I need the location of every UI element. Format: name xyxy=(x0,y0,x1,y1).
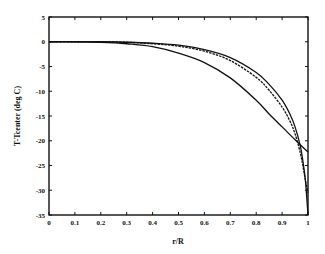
y-tick-label: -30 xyxy=(36,187,46,195)
series-layer xyxy=(49,42,308,215)
x-tick-label: 0.9 xyxy=(278,219,287,227)
y-tick-label: -5 xyxy=(39,63,45,71)
y-tick-label: -20 xyxy=(36,137,46,145)
x-tick-label: 0.4 xyxy=(148,219,157,227)
x-tick-label: 1 xyxy=(306,219,310,227)
x-tick-label: 0.7 xyxy=(226,219,235,227)
x-axis-title: r/R xyxy=(172,237,184,246)
y-axis-title: T-Tcenter (deg C) xyxy=(13,86,22,146)
y-tick-label: 0 xyxy=(42,38,46,46)
x-tick-label: 0.5 xyxy=(174,219,183,227)
y-tick-label: -25 xyxy=(36,162,46,170)
x-tick-label: 0.8 xyxy=(252,219,261,227)
y-tick-label: -35 xyxy=(36,212,46,220)
x-axis-ticks: 00.10.20.30.40.50.60.70.80.91 xyxy=(47,17,310,227)
series-line-curve-2-dashed-inner xyxy=(49,42,308,193)
series-line-curve-1-solid-outer xyxy=(49,42,308,215)
y-tick-label: 5 xyxy=(42,14,46,22)
chart: 00.10.20.30.40.50.60.70.80.91 50-5-10-15… xyxy=(0,0,325,254)
x-tick-label: 0.2 xyxy=(96,219,105,227)
x-tick-label: 0.6 xyxy=(200,219,209,227)
x-tick-label: 0 xyxy=(47,219,51,227)
x-tick-label: 0.1 xyxy=(71,219,80,227)
series-line-curve-3-solid-lower xyxy=(49,42,308,152)
x-tick-label: 0.3 xyxy=(122,219,131,227)
y-tick-label: -10 xyxy=(36,88,46,96)
y-tick-label: -15 xyxy=(36,113,46,121)
